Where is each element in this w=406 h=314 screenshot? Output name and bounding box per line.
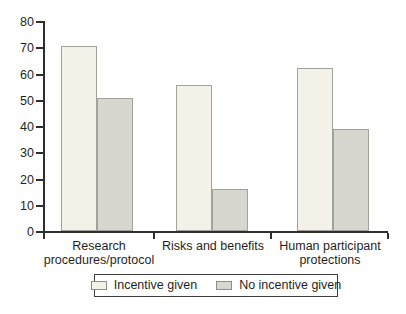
category-label-line: Human participant [255, 239, 405, 253]
x-axis-line [43, 231, 388, 233]
legend: Incentive givenNo incentive given [94, 274, 338, 297]
bar-no-incentive-given-human-participant-protections [333, 129, 369, 231]
bar-incentive-given-research-procedures-protocol [61, 46, 97, 231]
y-axis-line [43, 21, 45, 233]
category-label-line: protections [255, 253, 405, 267]
y-tick-30 [36, 152, 43, 154]
y-tick-10 [36, 205, 43, 207]
y-tick-label-40: 40 [6, 120, 34, 134]
y-tick-40 [36, 126, 43, 128]
y-tick-80 [36, 21, 43, 23]
y-tick-label-70: 70 [6, 41, 34, 55]
legend-label-no-incentive-given: No incentive given [239, 279, 341, 292]
y-tick-label-20: 20 [6, 173, 34, 187]
y-tick-50 [36, 100, 43, 102]
y-tick-label-0: 0 [6, 225, 34, 239]
legend-entry-incentive-given: Incentive given [91, 279, 197, 292]
y-tick-label-30: 30 [6, 146, 34, 160]
category-label-human-participant-protections: Human participantprotections [255, 239, 405, 267]
y-tick-label-50: 50 [6, 94, 34, 108]
y-tick-20 [36, 179, 43, 181]
bar-incentive-given-risks-and-benefits [176, 85, 212, 231]
bar-no-incentive-given-research-procedures-protocol [97, 98, 133, 231]
y-tick-label-60: 60 [6, 68, 34, 82]
y-tick-60 [36, 74, 43, 76]
category-label-line: procedures/protocol [24, 253, 174, 267]
legend-entry-no-incentive-given: No incentive given [216, 279, 341, 292]
y-tick-label-80: 80 [6, 15, 34, 29]
bar-chart-figure: Incentive givenNo incentive given 010203… [0, 0, 406, 314]
legend-swatch-incentive-given [91, 281, 107, 290]
y-tick-label-10: 10 [6, 199, 34, 213]
y-tick-0 [36, 231, 43, 233]
bar-incentive-given-human-participant-protections [297, 68, 333, 231]
legend-label-incentive-given: Incentive given [114, 279, 197, 292]
y-tick-70 [36, 47, 43, 49]
legend-swatch-no-incentive-given [216, 281, 232, 290]
bar-no-incentive-given-risks-and-benefits [212, 189, 248, 231]
